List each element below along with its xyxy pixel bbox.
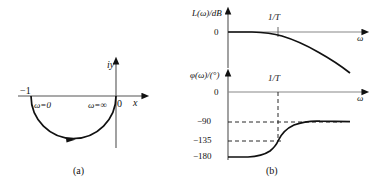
magnitude-axis-label: L(ω)/dB bbox=[192, 9, 222, 18]
magnitude-omega-axis-label: ω bbox=[357, 34, 363, 43]
panel-b-caption: (b) bbox=[266, 165, 278, 176]
magnitude-curve bbox=[228, 32, 350, 73]
iy-axis-label: iy bbox=[107, 60, 114, 70]
panel-bode: L(ω)/dB 0 1/T ω φ(ω)/(°) 0 1/T ω −90 −13… bbox=[190, 0, 375, 192]
phase-zero-tick-label: 0 bbox=[214, 88, 219, 97]
magnitude-zero-tick-label: 0 bbox=[214, 28, 219, 37]
magnitude-corner-frequency-label: 1/T bbox=[268, 13, 280, 22]
point-minus-one-label: −1 bbox=[20, 86, 31, 96]
omega-infinity-label: ω=∞ bbox=[88, 101, 107, 110]
omega-zero-label: ω=0 bbox=[34, 101, 51, 110]
phase-omega-axis-label: ω bbox=[357, 94, 363, 103]
origin-label: 0 bbox=[117, 99, 122, 109]
phase-axis-label: φ(ω)/(°) bbox=[190, 71, 219, 80]
phase-tick-minus-135: −135 bbox=[193, 136, 212, 145]
x-axis-label: x bbox=[133, 98, 137, 108]
panel-a-caption: (a) bbox=[73, 165, 84, 176]
panel-nyquist: −1 ω=0 ω=∞ 0 x iy (a) bbox=[0, 0, 190, 192]
phase-curve bbox=[228, 121, 350, 157]
phase-tick-minus-180: −180 bbox=[193, 152, 212, 161]
nyquist-graphic bbox=[0, 0, 190, 192]
phase-tick-minus-90: −90 bbox=[197, 117, 211, 126]
phase-corner-frequency-label: 1/T bbox=[268, 74, 280, 83]
figure-root: −1 ω=0 ω=∞ 0 x iy (a) bbox=[0, 0, 375, 192]
